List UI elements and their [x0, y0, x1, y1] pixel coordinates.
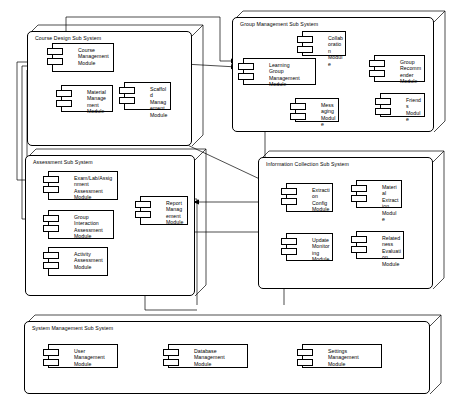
component-port-icon — [297, 46, 313, 53]
component-label-line: Module — [74, 361, 115, 367]
component-label-line: Extraction — [312, 187, 330, 200]
component-label-messaging: MessagingModule — [321, 102, 336, 128]
component-label-line: Management — [150, 99, 168, 112]
component-label-line: Exam/Lab/Assignment — [74, 175, 115, 188]
component-port-icon — [351, 246, 367, 253]
component-label-line: Collaboration — [328, 35, 343, 54]
component-port-icon — [47, 58, 63, 65]
component-label-line: Module — [74, 194, 115, 200]
component-port-icon — [238, 73, 254, 80]
component-label-line: Module — [74, 233, 111, 239]
component-database-management[interactable]: Database ManagementModule — [168, 344, 248, 368]
component-material-extraction[interactable]: MaterialExtractionModule — [356, 180, 402, 208]
component-port-icon — [281, 188, 297, 195]
component-label-update-monitoring: UpdateMonitoringModule — [312, 237, 330, 263]
subsystem-label-group-management: Group Management Sub System — [240, 21, 318, 27]
component-port-icon — [47, 48, 63, 55]
component-port-icon — [43, 186, 59, 193]
component-port-icon — [351, 195, 367, 202]
component-label-exam-lab-assignment-assessment: Exam/Lab/AssignmentAssessmentModule — [74, 175, 115, 201]
component-friends[interactable]: FriendsModule — [380, 93, 425, 117]
component-scaffold-management[interactable]: ScaffoldManagementModule — [124, 82, 171, 110]
component-label-line: Module — [406, 110, 422, 123]
component-port-icon — [135, 211, 151, 218]
component-port-icon — [297, 349, 313, 356]
component-learning-group-management[interactable]: LearningGroup ManagementModule — [243, 58, 316, 85]
component-settings-management[interactable]: Settings ManagementModule — [302, 344, 382, 368]
component-label-line: Assessment — [74, 257, 105, 263]
component-port-icon — [56, 90, 72, 97]
component-label-scaffold-management: ScaffoldManagementModule — [150, 86, 168, 118]
component-label-collaboration: CollaborationModule — [328, 35, 343, 67]
subsystem-label-system-management: System Management Sub System — [32, 325, 113, 331]
component-port-icon — [119, 87, 135, 94]
component-label-course-management: CourseManagementModule — [78, 47, 111, 66]
component-label-line: Recommender — [400, 65, 422, 78]
component-port-icon — [119, 97, 135, 104]
subsystem-information-collection[interactable]: Information Collection Sub System — [258, 157, 433, 289]
component-label-line: Material — [382, 184, 399, 197]
subsystem-label-course-design: Course Design Sub System — [35, 35, 101, 41]
component-port-icon — [43, 225, 59, 232]
component-label-line: Module — [382, 210, 399, 223]
component-label-line: Module — [400, 78, 422, 84]
component-label-line: Module — [328, 54, 343, 67]
component-port-icon — [369, 60, 385, 67]
component-port-icon — [369, 70, 385, 77]
component-port-icon — [163, 349, 179, 356]
component-user-management[interactable]: User ManagementModule — [48, 344, 118, 368]
component-activity-assessment[interactable]: ActivityAssessmentModule — [48, 247, 108, 276]
component-port-icon — [351, 185, 367, 192]
component-diagram-canvas: Course Design Sub SystemCourseManagement… — [0, 0, 451, 412]
component-label-activity-assessment: ActivityAssessmentModule — [74, 251, 105, 270]
component-port-icon — [43, 252, 59, 259]
component-label-line: Module — [166, 219, 185, 225]
component-label-line: Module — [150, 112, 168, 118]
component-label-line: Settings Management — [328, 348, 379, 361]
component-label-line: Extraction — [382, 197, 399, 210]
component-label-database-management: Database ManagementModule — [194, 348, 245, 367]
component-course-management[interactable]: CourseManagementModule — [52, 43, 114, 72]
component-label-line: Management — [166, 206, 185, 219]
component-label-line: Evaluation — [382, 248, 401, 261]
subsystem-label-information-collection: Information Collection Sub System — [266, 161, 349, 167]
component-port-icon — [163, 359, 179, 366]
component-label-line: Module — [269, 81, 313, 87]
component-update-monitoring[interactable]: UpdateMonitoringModule — [286, 233, 333, 261]
component-material-management[interactable]: MaterialManagementModule — [61, 85, 113, 112]
component-label-report-management: ReportManagementModule — [166, 200, 185, 226]
component-label-group-recommender: GroupRecommenderModule — [400, 59, 422, 85]
component-port-icon — [43, 176, 59, 183]
component-messaging[interactable]: MessagingModule — [295, 98, 339, 122]
component-label-line: User Management — [74, 348, 115, 361]
component-port-icon — [43, 262, 59, 269]
component-label-settings-management: Settings ManagementModule — [328, 348, 379, 367]
component-label-friends: FriendsModule — [406, 97, 422, 123]
component-collaboration[interactable]: CollaborationModule — [302, 31, 346, 56]
component-relatedness-evaluation[interactable]: RelatednessEvaluationModule — [356, 231, 404, 259]
component-report-management[interactable]: ReportManagementModule — [140, 196, 188, 225]
component-label-extraction-config: ExtractionConfigModule — [312, 187, 330, 213]
component-port-icon — [290, 103, 306, 110]
component-extraction-config[interactable]: ExtractionConfigModule — [286, 183, 333, 212]
component-exam-lab-assignment-assessment[interactable]: Exam/Lab/AssignmentAssessmentModule — [48, 171, 118, 200]
component-label-relatedness-evaluation: RelatednessEvaluationModule — [382, 235, 401, 267]
component-port-icon — [281, 198, 297, 205]
component-port-icon — [290, 113, 306, 120]
component-label-line: Module — [321, 115, 336, 128]
component-label-learning-group-management: LearningGroup ManagementModule — [269, 62, 313, 88]
component-label-line: Module — [312, 206, 330, 212]
component-label-line: Module — [78, 60, 111, 66]
subsystem-label-assessment: Assessment Sub System — [33, 159, 93, 165]
component-port-icon — [43, 359, 59, 366]
component-label-line: Module — [194, 361, 245, 367]
component-label-line: Relatedness — [382, 235, 401, 248]
component-group-recommender[interactable]: GroupRecommenderModule — [374, 55, 425, 82]
component-port-icon — [351, 236, 367, 243]
component-label-line: Management — [87, 95, 110, 108]
component-label-line: Module — [328, 361, 379, 367]
component-port-icon — [43, 349, 59, 356]
component-label-group-interaction-assessment: Group InteractionAssessmentModule — [74, 214, 111, 240]
component-label-line: Group Management — [269, 68, 313, 81]
component-group-interaction-assessment[interactable]: Group InteractionAssessmentModule — [48, 210, 114, 239]
